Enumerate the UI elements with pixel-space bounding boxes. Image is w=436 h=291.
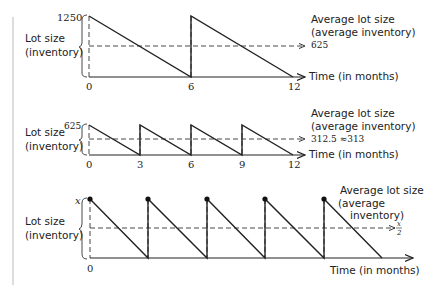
average-label: Average lot size [311,13,395,25]
x-tick: 0 [87,263,93,274]
x-tick: 9 [239,159,245,170]
y-max-label: 625 [64,121,81,131]
panel-general-orders: Lot size (inventory) x 0 Average lot siz… [25,184,424,276]
average-value: 625 [311,40,328,50]
x-tick: 12 [288,81,301,92]
x-tick: 3 [137,159,143,170]
order-points [87,196,326,201]
average-value-denominator: 2 [396,229,402,237]
y-max-label: x [75,195,81,206]
x-tick: 6 [188,81,194,92]
x-tick: 12 [288,159,301,170]
x-axis-label: Time (in months) [308,70,399,82]
y-axis-label-sub: (inventory) [25,140,83,152]
average-value-numerator: x [397,220,401,228]
x-tick: 6 [188,159,194,170]
panel-annual-order: Lot size (inventory) 1250 0 6 12 Average… [25,12,416,92]
y-max-label: 1250 [57,12,82,23]
average-value: 312.5 ≈313 [311,134,365,144]
lot-size-diagram: Lot size (inventory) 1250 0 6 12 Average… [0,0,436,291]
y-axis-label: Lot size [25,215,65,227]
y-axis-label-sub: (inventory) [25,46,83,58]
x-axis-label: Time (in months) [329,264,420,276]
y-axis-label-sub: (inventory) [25,229,83,241]
average-label: Average lot size [311,107,395,119]
average-label-sub2: inventory) [350,209,404,221]
inventory-sawtooth [89,16,293,77]
x-tick: 0 [86,159,92,170]
x-axis-label: Time (in months) [308,148,399,160]
x-tick: 0 [86,81,92,92]
average-label-sub: (average [338,197,385,209]
average-label-sub: (average inventory) [311,26,416,38]
average-label-sub: (average inventory) [311,120,416,132]
average-label: Average lot size [340,184,424,196]
y-axis-label: Lot size [25,126,65,138]
y-axis-label: Lot size [25,32,65,44]
panel-quarterly-orders: Lot size (inventory) 625 0 3 6 9 12 Aver… [25,107,416,170]
inventory-sawtooth [89,125,293,155]
